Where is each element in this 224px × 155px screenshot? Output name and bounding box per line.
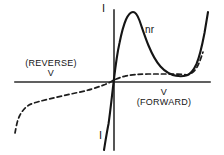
iv-characteristic-figure: I I nr (REVERSE) V V (FORWARD): [0, 0, 224, 155]
forward-region-label: (FORWARD): [136, 98, 192, 107]
negative-resistance-label: nr: [145, 25, 155, 35]
current-axis-bottom-label: I: [99, 130, 102, 141]
reverse-region-label: (REVERSE): [22, 59, 80, 68]
reverse-voltage-symbol-label: V: [22, 69, 80, 78]
forward-region-label-group: V (FORWARD): [136, 88, 192, 107]
forward-voltage-symbol-label: V: [136, 88, 192, 97]
reverse-region-label-group: (REVERSE) V: [22, 59, 80, 78]
current-axis-top-label: I: [102, 3, 105, 14]
negative-resistance-curve: [104, 12, 208, 150]
